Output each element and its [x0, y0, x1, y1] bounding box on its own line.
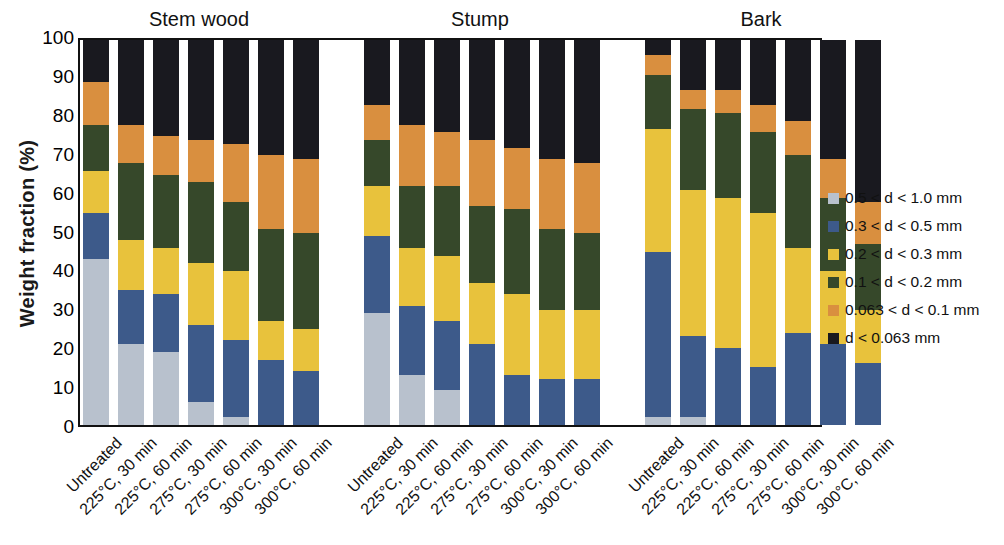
legend-item[interactable]: 0.1 < d < 0.2 mm [828, 270, 1004, 294]
bar-segment [153, 136, 179, 175]
bar-segment [574, 40, 600, 163]
bar-segment [820, 344, 846, 425]
chart-figure: Weight fraction (%) 10090807060504030201… [0, 0, 1004, 545]
bar-segment [293, 233, 319, 329]
y-axis-ticks: 1009080706050403020100 [24, 0, 74, 545]
bar-segment [364, 140, 390, 186]
bar-segment [574, 233, 600, 310]
bar-segment [118, 290, 144, 344]
bar-segment [223, 144, 249, 202]
bar-segment [293, 40, 319, 159]
bar-segment [680, 417, 706, 425]
legend-swatch-icon [828, 193, 839, 204]
stacked-bar [715, 40, 741, 425]
bar-segment [293, 159, 319, 232]
bar-segment [83, 213, 109, 259]
bar-segment [223, 40, 249, 144]
bar-segment [223, 271, 249, 340]
bar-segment [715, 90, 741, 113]
bar-segment [750, 105, 776, 132]
legend-item[interactable]: 0.5 < d < 1.0 mm [828, 186, 1004, 210]
stacked-bar [293, 40, 319, 425]
stacked-bar [118, 40, 144, 425]
bar-segment [118, 344, 144, 425]
bar-segment [785, 333, 811, 425]
bar-segment [715, 348, 741, 425]
bar-segment [750, 40, 776, 105]
bar-segment [680, 109, 706, 190]
legend-label: 0.5 < d < 1.0 mm [845, 189, 962, 207]
legend-swatch-icon [828, 333, 839, 344]
bar-segment [785, 40, 811, 121]
stacked-bar [469, 40, 495, 425]
bar-segment [680, 336, 706, 417]
bar-segment [83, 82, 109, 124]
legend-item[interactable]: 0.063 < d < 0.1 mm [828, 298, 1004, 322]
stacked-bar [785, 40, 811, 425]
bar-segment [399, 186, 425, 248]
stacked-bar [574, 40, 600, 425]
bar-segment [469, 283, 495, 345]
bar-segment [469, 140, 495, 205]
stacked-bar [750, 40, 776, 425]
x-axis-ticks: Untreated225°C, 30 min225°C, 60 min275°C… [78, 430, 838, 545]
legend-item[interactable]: d < 0.063 mm [828, 326, 1004, 350]
group-title: Stem wood [149, 8, 249, 31]
bar-segment [153, 352, 179, 425]
bar-segment [83, 125, 109, 171]
bars-container [80, 40, 820, 425]
bar-segment [258, 360, 284, 425]
bar-segment [469, 344, 495, 425]
stacked-bar [364, 40, 390, 425]
legend-item[interactable]: 0.3 < d < 0.5 mm [828, 214, 1004, 238]
bar-segment [539, 229, 565, 310]
bar-segment [434, 40, 460, 132]
bar-segment [715, 198, 741, 348]
bar-segment [188, 325, 214, 402]
bar-segment [785, 155, 811, 247]
bar-segment [223, 417, 249, 425]
stacked-bar [399, 40, 425, 425]
bar-segment [434, 186, 460, 255]
y-tick-label: 70 [24, 144, 74, 166]
chart-legend: 0.5 < d < 1.0 mm0.3 < d < 0.5 mm0.2 < d … [828, 186, 1004, 354]
bar-segment [188, 263, 214, 325]
bar-segment [785, 121, 811, 156]
bar-segment [574, 163, 600, 232]
legend-swatch-icon [828, 277, 839, 288]
bar-segment [750, 367, 776, 425]
stacked-bar [504, 40, 530, 425]
bar-segment [645, 417, 671, 425]
legend-item[interactable]: 0.2 < d < 0.3 mm [828, 242, 1004, 266]
bar-segment [645, 55, 671, 74]
bar-segment [645, 40, 671, 55]
bar-segment [153, 294, 179, 352]
bar-segment [539, 40, 565, 159]
y-tick-label: 80 [24, 105, 74, 127]
group-title: Bark [740, 8, 781, 31]
plot-area [78, 38, 822, 427]
y-tick-label: 40 [24, 260, 74, 282]
bar-segment [855, 40, 881, 202]
legend-label: 0.063 < d < 0.1 mm [845, 301, 979, 319]
bar-segment [223, 202, 249, 271]
bar-segment [504, 375, 530, 425]
bar-segment [118, 40, 144, 125]
legend-label: 0.3 < d < 0.5 mm [845, 217, 962, 235]
stacked-bar [434, 40, 460, 425]
group-title: Stump [451, 8, 509, 31]
bar-segment [434, 132, 460, 186]
bar-segment [364, 105, 390, 140]
bar-segment [118, 125, 144, 164]
stacked-bar [680, 40, 706, 425]
bar-segment [434, 256, 460, 321]
y-tick-label: 0 [24, 416, 74, 438]
stacked-bar [153, 40, 179, 425]
bar-segment [539, 310, 565, 379]
bar-segment [750, 132, 776, 213]
bar-segment [680, 90, 706, 109]
bar-segment [680, 190, 706, 336]
stacked-bar [645, 40, 671, 425]
bar-segment [855, 363, 881, 425]
bar-segment [364, 40, 390, 105]
